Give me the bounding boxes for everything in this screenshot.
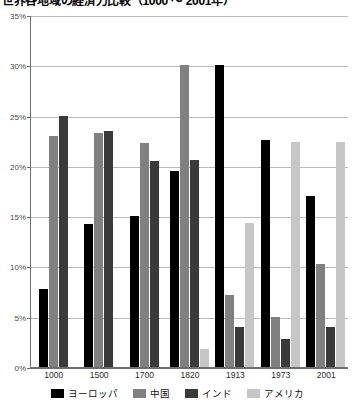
y-tick-mark bbox=[27, 368, 30, 369]
x-tick-label: 1820 bbox=[167, 370, 212, 380]
bar bbox=[49, 136, 58, 367]
legend-label: 中国 bbox=[150, 386, 170, 400]
bar bbox=[261, 140, 270, 367]
bar bbox=[180, 65, 189, 367]
gridline bbox=[30, 368, 348, 369]
bar bbox=[150, 161, 159, 367]
bar bbox=[245, 223, 254, 367]
legend-swatch-icon bbox=[247, 389, 260, 398]
x-axis-labels: 1000150017001820191319732001 bbox=[31, 370, 349, 380]
bar bbox=[235, 327, 244, 367]
legend-item[interactable]: 中国 bbox=[133, 386, 170, 400]
y-tick-label: 20% bbox=[0, 163, 30, 172]
y-tick-label: 25% bbox=[0, 113, 30, 122]
bar bbox=[140, 143, 149, 367]
y-tick-label: 0% bbox=[0, 364, 30, 373]
bar bbox=[104, 131, 113, 367]
bar bbox=[225, 295, 234, 367]
legend-item[interactable]: アメリカ bbox=[247, 386, 304, 400]
y-tick-label: 35% bbox=[0, 12, 30, 21]
legend-swatch-icon bbox=[133, 389, 146, 398]
chart-container: 世界各地域の経済力比較（1000 ～ 2001年） 0%5%10%15%20%2… bbox=[0, 0, 354, 406]
bar bbox=[326, 327, 335, 367]
y-tick-label: 30% bbox=[0, 62, 30, 71]
bar bbox=[271, 317, 280, 367]
bar bbox=[84, 224, 93, 367]
legend-label: アメリカ bbox=[264, 386, 304, 400]
bar bbox=[215, 65, 224, 367]
bar bbox=[59, 116, 68, 367]
bar-group bbox=[31, 16, 76, 367]
legend-swatch-icon bbox=[185, 389, 198, 398]
bar bbox=[190, 160, 199, 367]
x-tick-label: 2001 bbox=[304, 370, 349, 380]
bar bbox=[39, 289, 48, 367]
legend-item[interactable]: ヨーロッパ bbox=[51, 386, 118, 400]
x-tick-label: 1000 bbox=[31, 370, 76, 380]
x-tick-label: 1700 bbox=[122, 370, 167, 380]
legend-label: ヨーロッパ bbox=[68, 386, 118, 400]
bar bbox=[281, 339, 290, 367]
bar bbox=[316, 264, 325, 367]
bar-group bbox=[303, 16, 348, 367]
x-axis-line bbox=[30, 367, 348, 368]
bar bbox=[94, 133, 103, 367]
x-tick-label: 1500 bbox=[76, 370, 121, 380]
bar bbox=[336, 142, 345, 367]
bar-group bbox=[167, 16, 212, 367]
plot-inner: 0%5%10%15%20%25%30%35% bbox=[30, 16, 348, 368]
bar-group bbox=[212, 16, 257, 367]
bar bbox=[130, 216, 139, 367]
bar-group bbox=[76, 16, 121, 367]
bar-group bbox=[257, 16, 302, 367]
legend-label: インド bbox=[202, 386, 232, 400]
y-tick-label: 10% bbox=[0, 263, 30, 272]
bar-group bbox=[122, 16, 167, 367]
x-tick-label: 1973 bbox=[258, 370, 303, 380]
bar bbox=[291, 142, 300, 367]
legend-swatch-icon bbox=[51, 389, 64, 398]
x-tick-label: 1913 bbox=[213, 370, 258, 380]
bar bbox=[170, 171, 179, 367]
bar bbox=[200, 349, 209, 367]
plot-area: 0%5%10%15%20%25%30%35% bbox=[30, 16, 348, 368]
bar bbox=[306, 196, 315, 367]
y-tick-label: 5% bbox=[0, 314, 30, 323]
legend-item[interactable]: インド bbox=[185, 386, 232, 400]
y-tick-label: 15% bbox=[0, 213, 30, 222]
chart-legend: ヨーロッパ中国インドアメリカ bbox=[0, 386, 354, 400]
chart-title: 世界各地域の経済力比較（1000 ～ 2001年） bbox=[2, 0, 235, 8]
bar-groups bbox=[31, 16, 348, 367]
